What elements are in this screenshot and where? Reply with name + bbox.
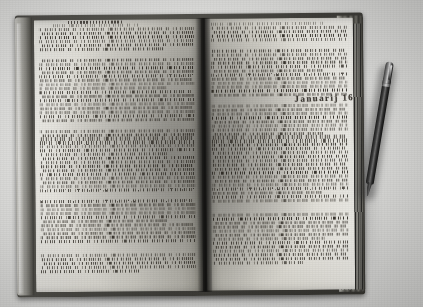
photograph-scene: Januarij 1620 [0, 0, 423, 307]
left-page-handwriting [39, 23, 196, 274]
right-page-handwriting [211, 22, 349, 266]
open-manuscript-book: Januarij 1620 [15, 12, 365, 297]
left-page-verso [34, 19, 203, 292]
left-board-highlight [17, 23, 24, 293]
left-board-edge [15, 17, 34, 295]
book-gutter-shadow [196, 18, 212, 292]
date-inscription: Januarij 1620 [294, 92, 355, 104]
right-page-recto: Januarij 1620 [205, 18, 355, 291]
